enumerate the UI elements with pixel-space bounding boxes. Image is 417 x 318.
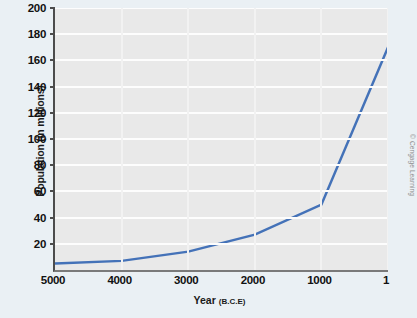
y-axis-tick-label: 140 (8, 81, 46, 93)
gridline-vertical (121, 8, 123, 270)
gridline-horizontal (55, 59, 388, 61)
gridline-horizontal (55, 8, 388, 9)
y-axis-tick-label: 80 (8, 159, 46, 171)
y-axis-tick-mark (50, 164, 55, 166)
y-axis-tick-label: 180 (8, 28, 46, 40)
gridline-horizontal (55, 112, 388, 114)
y-axis-tick-label: 20 (8, 238, 46, 250)
y-axis-tick-labels: 020406080100120140160180200 (8, 0, 46, 318)
gridline-vertical (320, 8, 322, 270)
x-axis-tick-label: 2000 (241, 274, 265, 286)
y-axis-tick-mark (50, 112, 55, 114)
y-axis-tick-mark (50, 7, 55, 9)
gridline-vertical (254, 8, 256, 270)
gridline-horizontal (55, 190, 388, 192)
x-axis-tick-labels: 500040003000200010001 (53, 274, 393, 294)
plot-inner (55, 8, 388, 270)
y-axis-tick-mark (50, 243, 55, 245)
x-axis-title-suffix: (B.C.E) (219, 297, 246, 306)
x-axis-tick-label: 4000 (107, 274, 131, 286)
y-axis-tick-label: 40 (8, 212, 46, 224)
gridline-horizontal (55, 33, 388, 35)
y-axis-tick-mark (50, 138, 55, 140)
gridline-horizontal (55, 138, 388, 140)
x-axis-tick-label: 5000 (41, 274, 65, 286)
x-axis-tick-label: 3000 (174, 274, 198, 286)
gridline-horizontal (55, 217, 388, 219)
gridline-vertical (387, 8, 388, 270)
y-axis-tick-mark (50, 59, 55, 61)
population-line-chart: Population (in millions) 020406080100120… (0, 0, 417, 318)
y-axis-tick-label: 200 (8, 2, 46, 14)
population-series-line (55, 47, 388, 263)
x-axis-tick-label: 1000 (307, 274, 331, 286)
x-axis-title-main: Year (194, 294, 216, 306)
plot-area (53, 8, 388, 272)
gridline-horizontal (55, 86, 388, 88)
x-axis-tick-label: 1 (383, 274, 389, 286)
gridline-horizontal (55, 164, 388, 166)
y-axis-tick-label: 160 (8, 54, 46, 66)
y-axis-tick-label: 100 (8, 133, 46, 145)
y-axis-tick-mark (50, 190, 55, 192)
y-axis-tick-mark (50, 86, 55, 88)
gridline-horizontal (55, 243, 388, 245)
x-axis-title: Year (B.C.E) (53, 294, 386, 306)
y-axis-tick-label: 120 (8, 107, 46, 119)
y-axis-tick-mark (50, 217, 55, 219)
copyright-credit: © Cengage Learning (409, 134, 416, 196)
gridline-vertical (187, 8, 189, 270)
y-axis-tick-label: 60 (8, 185, 46, 197)
y-axis-tick-mark (50, 33, 55, 35)
